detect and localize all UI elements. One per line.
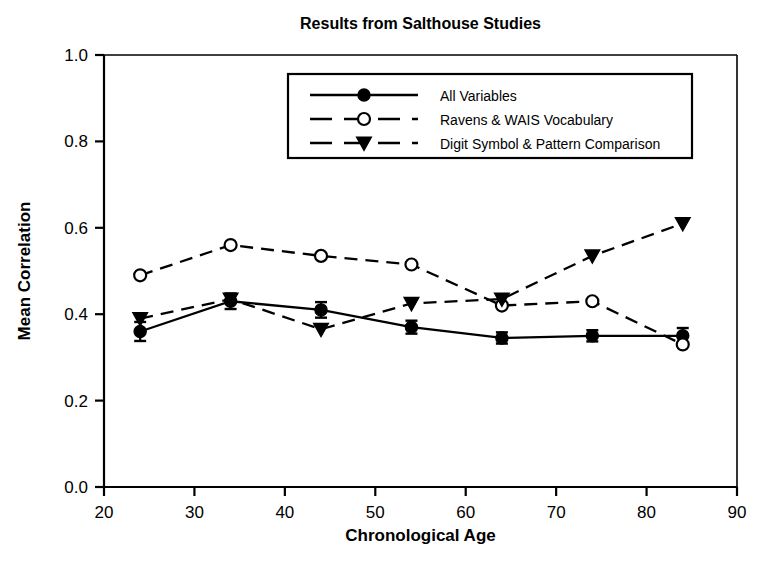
data-point-2-6 <box>675 217 690 231</box>
data-point-2-5 <box>585 250 600 264</box>
salthouse-line-chart: Results from Salthouse Studies0.00.20.40… <box>0 0 773 570</box>
y-tick-label-0.2: 0.2 <box>64 392 88 411</box>
y-tick-label-0.0: 0.0 <box>64 478 88 497</box>
data-point-1-1 <box>225 239 237 251</box>
y-tick-label-0.8: 0.8 <box>64 132 88 151</box>
data-point-0-0 <box>134 325 146 337</box>
data-point-1-3 <box>405 259 417 271</box>
legend-label-2: Digit Symbol & Pattern Comparison <box>440 136 660 152</box>
x-tick-label-30: 30 <box>185 503 204 522</box>
data-point-0-3 <box>405 321 417 333</box>
y-tick-label-0.6: 0.6 <box>64 219 88 238</box>
y-axis-label: Mean Correlation <box>15 202 34 341</box>
x-tick-label-80: 80 <box>637 503 656 522</box>
chart-figure: Results from Salthouse Studies0.00.20.40… <box>0 0 773 570</box>
series-line-2 <box>140 223 683 329</box>
legend-label-1: Ravens & WAIS Vocabulary <box>440 112 613 128</box>
data-point-0-2 <box>315 304 327 316</box>
data-point-1-6 <box>677 338 689 350</box>
data-point-2-2 <box>314 323 329 337</box>
x-tick-label-50: 50 <box>366 503 385 522</box>
data-point-1-2 <box>315 250 327 262</box>
y-tick-label-1.0: 1.0 <box>64 46 88 65</box>
data-point-1-5 <box>586 295 598 307</box>
x-tick-label-20: 20 <box>95 503 114 522</box>
legend-marker-0 <box>358 89 370 101</box>
x-tick-label-60: 60 <box>456 503 475 522</box>
chart-title: Results from Salthouse Studies <box>300 15 541 32</box>
data-point-1-0 <box>134 269 146 281</box>
data-point-2-0 <box>133 313 148 327</box>
x-axis-label: Chronological Age <box>345 526 496 545</box>
data-point-0-4 <box>496 332 508 344</box>
x-tick-label-90: 90 <box>728 503 747 522</box>
x-tick-label-70: 70 <box>547 503 566 522</box>
legend-label-0: All Variables <box>440 88 517 104</box>
data-point-0-5 <box>586 330 598 342</box>
x-tick-label-40: 40 <box>275 503 294 522</box>
y-tick-label-0.4: 0.4 <box>64 305 88 324</box>
legend-marker-1 <box>358 113 370 125</box>
